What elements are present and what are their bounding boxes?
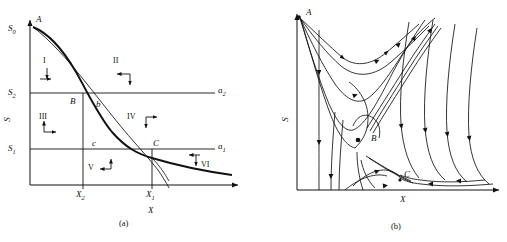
region-III-label: III [39, 113, 47, 121]
point-A-label-b: A [306, 8, 312, 17]
trajectory-left-3 [339, 120, 343, 190]
panel-b-caption: (b) [391, 222, 401, 231]
trajectory-right-4 [468, 28, 489, 184]
curve-c [33, 27, 232, 175]
y-axis-label-b: S [281, 110, 290, 130]
inflow-to-C-2 [400, 175, 485, 182]
label-a2: a2 [218, 86, 226, 97]
saddle-branch-down-left [361, 160, 375, 188]
saddle-branch-up-right-2 [370, 26, 438, 131]
curve-b [33, 27, 169, 188]
trajectory-right-2 [424, 20, 445, 180]
x-axis-label-b: X [400, 195, 406, 204]
panel-a-plot [0, 0, 250, 210]
panel-b-plot [257, 0, 507, 210]
trajectory-left-down [357, 152, 363, 190]
y-axis-label-a: S [3, 110, 12, 130]
point-C-label-b: C [404, 170, 410, 179]
trajectory-left-2 [331, 112, 335, 190]
region-III-arrows [44, 121, 56, 132]
region-I-arrows [40, 68, 51, 79]
region-II-label: II [113, 57, 118, 65]
label-a1: a1 [218, 142, 226, 153]
xtick-X2: X2 [76, 190, 85, 201]
equilibrium-point-B [356, 138, 361, 143]
curve-c-label: c [92, 139, 96, 148]
xtick-X1: X1 [146, 190, 155, 201]
panel-b-trajectories [300, 18, 493, 190]
region-I-label: I [43, 57, 46, 65]
point-C-label-a: C [153, 139, 159, 148]
ytick-S2: S2 [8, 88, 16, 99]
region-VI-arrows [189, 155, 200, 166]
equilibrium-point-A [297, 15, 301, 19]
saddle-branch-up-right-3 [373, 28, 441, 133]
point-B-label-a: B [70, 97, 76, 106]
equilibrium-point-C [398, 178, 401, 181]
ytick-S0: S0 [8, 24, 16, 35]
panel-a-caption: (a) [119, 219, 128, 228]
region-II-arrows [117, 74, 130, 85]
point-A-label-a: A [36, 15, 42, 24]
curve-b-label: b [96, 100, 101, 109]
point-B-label-b: B [371, 134, 377, 143]
ytick-S1: S1 [8, 144, 16, 155]
loop-left-of-C-2 [345, 175, 387, 190]
region-VI-label: VI [201, 161, 209, 169]
figure-two-panel-phase-diagram: S0 S2 S1 S X2 X1 X a2 a1 A B C b c I II … [0, 0, 507, 242]
trajectory-right-3 [446, 24, 467, 182]
region-IV-arrows [146, 117, 157, 128]
region-V-arrows [100, 159, 111, 169]
region-IV-label: IV [127, 113, 135, 121]
x-axis-label-a: X [148, 206, 154, 215]
region-V-label: V [88, 164, 94, 172]
